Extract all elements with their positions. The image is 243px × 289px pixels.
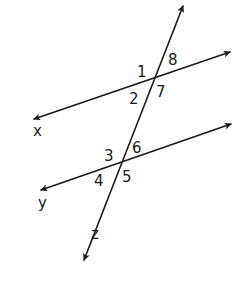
angle-label-3: 3 [104, 147, 114, 165]
angle-label-4: 4 [94, 172, 104, 190]
angle-label-7: 7 [156, 83, 166, 101]
transversal-diagram: x y z 1 8 7 2 3 6 5 4 [0, 0, 243, 289]
angle-label-5: 5 [122, 168, 132, 186]
angle-label-1: 1 [137, 63, 147, 81]
line-x [34, 52, 230, 119]
angle-label-2: 2 [129, 90, 139, 108]
angle-label-8: 8 [168, 51, 178, 69]
label-line-y: y [38, 194, 47, 212]
label-line-z: z [91, 225, 99, 243]
label-line-x: x [33, 122, 42, 140]
angle-label-6: 6 [132, 139, 142, 157]
transversal-z [84, 6, 183, 260]
line-y [41, 124, 231, 190]
